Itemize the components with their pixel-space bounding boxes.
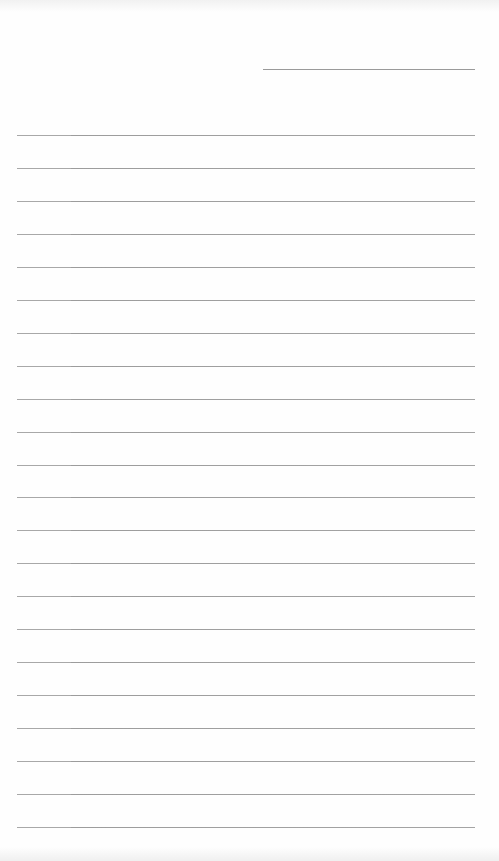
ruled-line <box>17 629 475 630</box>
ruled-line <box>17 563 475 564</box>
ruled-line <box>17 827 475 828</box>
ruled-line <box>17 267 475 268</box>
ruled-line <box>17 168 475 169</box>
page-bottom-shadow <box>0 847 499 861</box>
ruled-line <box>17 662 475 663</box>
ruled-line <box>17 530 475 531</box>
ruled-line <box>17 366 475 367</box>
ruled-line <box>17 201 475 202</box>
ruled-line <box>17 399 475 400</box>
ruled-line <box>17 135 475 136</box>
ruled-line <box>17 300 475 301</box>
ruled-line <box>17 432 475 433</box>
ruled-line <box>17 234 475 235</box>
ruled-line <box>17 728 475 729</box>
ruled-line <box>17 465 475 466</box>
page-top-shadow <box>0 0 499 12</box>
ruled-line <box>17 596 475 597</box>
ruled-line <box>17 497 475 498</box>
lined-paper-page <box>0 0 499 861</box>
ruled-line <box>17 794 475 795</box>
ruled-line <box>17 761 475 762</box>
ruled-line <box>17 333 475 334</box>
ruled-line <box>17 695 475 696</box>
header-write-line <box>263 69 475 70</box>
